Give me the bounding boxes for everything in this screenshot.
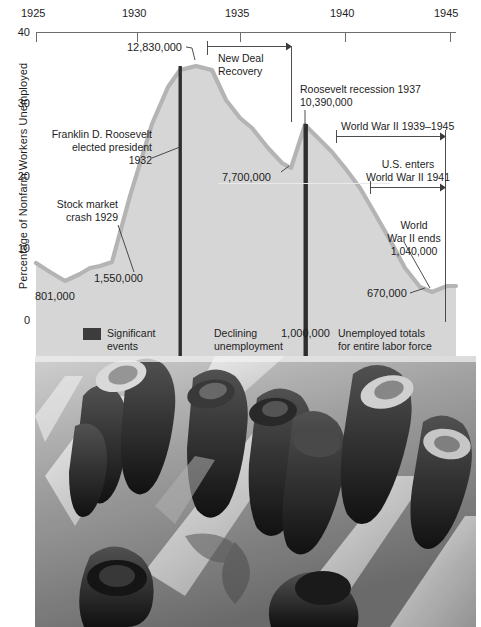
x-tick-1935: 1935 (225, 7, 249, 19)
label-fdr-line1: Franklin D. Roosevelt (40, 128, 152, 140)
legend-swatch-declining-unemployment (190, 328, 208, 340)
legend-label-totals-line1: Unemployed totals (338, 327, 425, 339)
label-roosevelt-recession: Roosevelt recession 1937 (300, 83, 421, 95)
leader-12830000 (186, 47, 195, 60)
label-1550000: 1,550,000 (94, 272, 143, 284)
legend-label-declining-line2: unemployment (214, 340, 283, 352)
x-tick-1925: 1925 (21, 7, 45, 19)
x-tick-1930: 1930 (122, 7, 146, 19)
legend-swatch-significant-events (83, 328, 101, 340)
label-ww2-ends-line2: War II ends (378, 232, 450, 244)
legend-label-totals-line2: for entire labor force (338, 340, 432, 352)
label-670000: 670,000 (367, 287, 407, 299)
unemployment-chart: 1925 1930 1935 1940 1945 40 30 20 10 0 P… (0, 0, 481, 360)
x-tick-1940: 1940 (330, 7, 354, 19)
x-tick-1945: 1945 (434, 7, 458, 19)
label-1000000: 1,000,000 (281, 327, 330, 339)
label-7700000: 7,700,000 (222, 171, 271, 183)
label-peak-12830000: 12,830,000 (60, 41, 182, 53)
label-fdr-line2: elected president (40, 141, 152, 153)
label-new-deal-line2: Recovery (218, 65, 262, 77)
label-ww2-ends-line1: World (378, 219, 450, 231)
legend-label-significant-line2: events (107, 340, 138, 352)
label-ww2-ends-value: 1,040,000 (378, 245, 450, 257)
label-fdr-line3: 1932 (40, 154, 152, 166)
label-ww2-span: World War II 1939–1945 (341, 120, 454, 132)
label-801000: 801,000 (35, 290, 75, 302)
y-axis-title: Percentage of Nonfarm Workers Unemployed (17, 61, 29, 291)
label-us-enters-line2: World War II 1941 (355, 171, 461, 183)
label-new-deal-line1: New Deal (218, 52, 264, 64)
label-crash-line1: Stock market (40, 198, 118, 210)
label-roosevelt-recession-value: 10,390,000 (300, 96, 353, 108)
y-tick-0: 0 (8, 314, 30, 326)
label-us-enters-line1: U.S. enters (355, 158, 461, 170)
y-tick-40: 40 (8, 26, 30, 38)
legend-label-significant-line1: Significant (107, 327, 155, 339)
event-bar-1937 (304, 124, 308, 360)
label-crash-line2: crash 1929 (40, 211, 118, 223)
event-bar-1929 (179, 66, 182, 360)
unemployment-line-photo (35, 356, 476, 627)
legend-label-declining-line1: Declining (214, 327, 257, 339)
photo-illustration (35, 356, 476, 627)
